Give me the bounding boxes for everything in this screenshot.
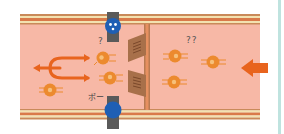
face-pump-icon [105, 12, 121, 42]
question-label: ? [98, 37, 103, 46]
vessel-wall-bottom [20, 109, 260, 120]
pump-sound-label: ポー [88, 94, 104, 102]
vessel-diagram: ? ?? ポー [0, 0, 284, 134]
vessel-illustration [0, 0, 284, 134]
vessel-wall-top [20, 14, 260, 25]
side-divider [278, 0, 281, 134]
pump-icon [105, 96, 122, 129]
double-question-label: ?? [186, 36, 198, 45]
